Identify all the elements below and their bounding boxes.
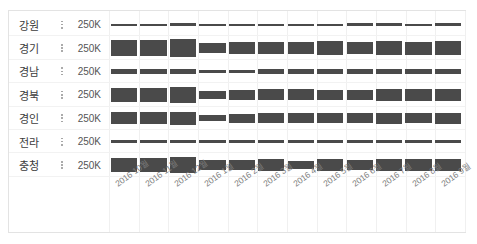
bar[interactable] xyxy=(229,90,255,100)
bar[interactable] xyxy=(347,69,373,73)
bar[interactable] xyxy=(435,69,461,74)
bar[interactable] xyxy=(376,140,402,143)
chart-row: 경기250K xyxy=(9,36,465,59)
bar[interactable] xyxy=(111,88,137,101)
bar[interactable] xyxy=(111,140,137,143)
chart-row: 경남250K xyxy=(9,60,465,83)
bar[interactable] xyxy=(376,23,402,25)
row-label-3: 경남 xyxy=(9,63,55,79)
row-plot-area xyxy=(109,107,465,130)
row-axis-max-label: 250K xyxy=(69,43,109,54)
bar[interactable] xyxy=(405,140,431,143)
bar[interactable] xyxy=(288,69,314,74)
bar[interactable] xyxy=(376,69,402,74)
bar[interactable] xyxy=(317,24,343,26)
bar[interactable] xyxy=(199,70,225,73)
row-label-6: 전라 xyxy=(9,134,55,150)
row-plot-area xyxy=(109,83,465,106)
bar[interactable] xyxy=(347,23,373,25)
row-overflow-menu-icon[interactable] xyxy=(55,161,69,169)
row-axis-max-label: 250K xyxy=(69,113,109,124)
bar[interactable] xyxy=(111,112,137,124)
bar[interactable] xyxy=(140,24,166,26)
bar[interactable] xyxy=(288,113,314,123)
bar[interactable] xyxy=(140,40,166,56)
bar[interactable] xyxy=(347,140,373,143)
bar[interactable] xyxy=(317,41,343,54)
bar[interactable] xyxy=(170,112,196,125)
bar[interactable] xyxy=(405,24,431,26)
row-axis-max-label: 250K xyxy=(69,19,109,30)
row-overflow-menu-icon[interactable] xyxy=(55,91,69,99)
bar[interactable] xyxy=(317,90,343,100)
row-plot-area xyxy=(109,130,465,153)
bar[interactable] xyxy=(405,42,431,55)
row-plot-area xyxy=(109,36,465,59)
bar[interactable] xyxy=(376,41,402,55)
bar[interactable] xyxy=(258,69,284,73)
bar[interactable] xyxy=(170,39,196,57)
row-label-1: 강원 xyxy=(9,17,55,33)
bar[interactable] xyxy=(435,113,461,124)
bar[interactable] xyxy=(258,89,284,100)
row-plot-area xyxy=(109,13,465,36)
bar[interactable] xyxy=(229,140,255,143)
bar[interactable] xyxy=(229,70,255,73)
bar[interactable] xyxy=(435,23,461,25)
bar[interactable] xyxy=(111,40,137,56)
bar[interactable] xyxy=(199,115,225,121)
bar[interactable] xyxy=(258,42,284,54)
bar[interactable] xyxy=(170,23,196,25)
bar[interactable] xyxy=(347,113,373,123)
bar[interactable] xyxy=(229,42,255,53)
bar[interactable] xyxy=(288,24,314,26)
row-overflow-menu-icon[interactable] xyxy=(55,138,69,146)
bar[interactable] xyxy=(288,140,314,143)
bar[interactable] xyxy=(435,41,461,54)
bar[interactable] xyxy=(317,69,343,73)
x-axis-tick-labels: 2016 10월2016 11월2016 12월2016 1월2016 2월20… xyxy=(9,179,465,233)
bar[interactable] xyxy=(140,140,166,143)
row-overflow-menu-icon[interactable] xyxy=(55,44,69,52)
bar[interactable] xyxy=(288,89,314,100)
row-overflow-menu-icon[interactable] xyxy=(55,114,69,122)
bar[interactable] xyxy=(405,113,431,123)
bar[interactable] xyxy=(170,87,196,103)
bar[interactable] xyxy=(258,113,284,123)
bar[interactable] xyxy=(347,42,373,54)
bar[interactable] xyxy=(199,140,225,143)
row-label-2: 경기 xyxy=(9,40,55,56)
bar[interactable] xyxy=(317,140,343,143)
bar[interactable] xyxy=(140,112,166,124)
bar[interactable] xyxy=(347,90,373,100)
bar[interactable] xyxy=(111,69,137,74)
bar[interactable] xyxy=(170,140,196,143)
bar[interactable] xyxy=(376,89,402,101)
chart-row: 경북250K xyxy=(9,83,465,106)
bar[interactable] xyxy=(199,91,225,100)
bar[interactable] xyxy=(170,69,196,74)
bar[interactable] xyxy=(317,113,343,123)
bar[interactable] xyxy=(435,140,461,143)
chart-row: 전라250K xyxy=(9,130,465,153)
bar[interactable] xyxy=(435,89,461,101)
chart-row: 경인250K xyxy=(9,107,465,130)
bar[interactable] xyxy=(140,88,166,102)
bar[interactable] xyxy=(199,24,225,26)
bar[interactable] xyxy=(229,114,255,123)
row-overflow-menu-icon[interactable] xyxy=(55,67,69,75)
row-overflow-menu-icon[interactable] xyxy=(55,21,69,29)
bar[interactable] xyxy=(229,24,255,26)
bar[interactable] xyxy=(111,24,137,26)
bar[interactable] xyxy=(405,89,431,101)
bar[interactable] xyxy=(258,140,284,143)
chart-panel: 강원250K경기250K경남250K경북250K경인250K전라250K충청25… xyxy=(8,10,466,233)
row-axis-max-label: 250K xyxy=(69,89,109,100)
bar[interactable] xyxy=(288,42,314,54)
bar[interactable] xyxy=(405,69,431,74)
bar[interactable] xyxy=(376,113,402,124)
bar[interactable] xyxy=(199,43,225,53)
bar[interactable] xyxy=(140,69,166,74)
row-axis-max-label: 250K xyxy=(69,160,109,171)
bar[interactable] xyxy=(258,24,284,26)
